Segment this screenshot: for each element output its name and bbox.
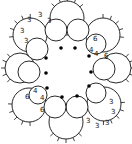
stitch-count-label: 3: [86, 117, 90, 125]
join-dot: [87, 54, 91, 58]
join-dot: [87, 84, 91, 88]
ring: [93, 58, 115, 80]
picot-tick: [126, 79, 129, 82]
join-dot: [75, 94, 79, 98]
ring: [44, 96, 66, 118]
picot-tick: [50, 133, 53, 136]
picot-tick: [73, 138, 75, 142]
picot-tick: [110, 16, 112, 20]
stitch-count-label: 3: [38, 11, 42, 19]
picot-tick: [111, 120, 113, 124]
stitch-count-label: 6: [104, 52, 109, 60]
picot-tick: [130, 74, 132, 76]
picot-tick: [3, 60, 7, 62]
picot-tick: [10, 28, 14, 29]
picot-tick: [130, 60, 132, 62]
tatting-diagram: 333336446446633333: [0, 0, 132, 144]
stitch-count-label: 6: [93, 35, 98, 43]
stitch-count-label: 3: [109, 98, 113, 106]
picot-tick: [57, 138, 59, 142]
ring: [26, 38, 48, 60]
stitch-count-label: 3: [24, 37, 28, 45]
picot-tick: [9, 111, 13, 112]
picot-tick: [126, 54, 129, 57]
stitch-count-label: 3: [105, 119, 109, 127]
stitch-count-label: 4: [33, 87, 38, 95]
ring: [66, 96, 88, 118]
picot-tick: [59, 0, 61, 2]
picot-tick: [120, 110, 124, 111]
picot-join-dots: [44, 46, 93, 99]
picot-tick: [22, 16, 24, 20]
join-dot: [89, 70, 93, 74]
picot-tick: [80, 4, 83, 7]
stitch-count-label: 6: [40, 106, 45, 114]
stitch-count-label: 4: [94, 50, 99, 58]
picot-tick: [14, 117, 17, 120]
ring: [18, 61, 40, 83]
join-dot: [60, 95, 64, 99]
picot-tick: [116, 116, 119, 119]
join-dot: [44, 71, 48, 75]
join-dot: [45, 86, 49, 90]
ring: [67, 19, 89, 41]
stitch-count-label: 4: [40, 94, 45, 102]
picot-tick: [116, 21, 119, 24]
picot-tick: [7, 54, 10, 57]
stitch-count-label: 3: [47, 17, 51, 25]
stitch-count-label: 3: [111, 108, 115, 116]
picot-tick: [52, 4, 55, 7]
picot-tick: [21, 121, 22, 125]
stitch-count-label: 3: [95, 122, 99, 130]
picot-tick: [79, 133, 82, 136]
join-dot: [59, 46, 63, 50]
stitch-count-label: 3: [27, 16, 31, 24]
picot-tick: [7, 79, 10, 82]
picot-tick: [119, 29, 123, 30]
picot-tick: [15, 21, 18, 24]
stitch-count-label: 6: [25, 93, 30, 101]
stitch-count-label: 3: [20, 27, 24, 35]
picot-tick: [3, 74, 7, 76]
picot-tick: [74, 0, 76, 3]
join-dot: [73, 46, 77, 50]
join-dot: [44, 56, 48, 60]
